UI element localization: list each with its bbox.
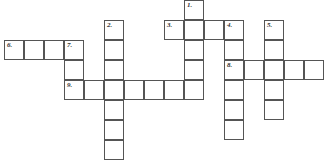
crossword-cell[interactable]: 1. bbox=[184, 0, 204, 20]
crossword-cell[interactable] bbox=[204, 20, 224, 40]
crossword-cell[interactable] bbox=[304, 60, 324, 80]
crossword-cell[interactable]: 4. bbox=[224, 20, 244, 40]
crossword-cell[interactable]: 7. bbox=[64, 40, 84, 60]
crossword-cell[interactable] bbox=[104, 140, 124, 160]
clue-number: 7. bbox=[67, 41, 72, 50]
crossword-cell[interactable] bbox=[284, 60, 304, 80]
crossword-cell[interactable] bbox=[104, 40, 124, 60]
crossword-cell[interactable] bbox=[184, 40, 204, 60]
crossword-cell[interactable] bbox=[24, 40, 44, 60]
crossword-cell[interactable] bbox=[104, 60, 124, 80]
clue-number: 9. bbox=[67, 81, 72, 90]
crossword-cell[interactable] bbox=[264, 100, 284, 120]
clue-number: 4. bbox=[227, 21, 232, 30]
crossword-cell[interactable] bbox=[104, 80, 124, 100]
crossword-cell[interactable]: 8. bbox=[224, 60, 244, 80]
crossword-cell[interactable] bbox=[264, 60, 284, 80]
crossword-grid: 1.2.3.4.8.5.6.7.9. bbox=[0, 0, 328, 166]
clue-number: 6. bbox=[7, 41, 12, 50]
crossword-cell[interactable] bbox=[104, 100, 124, 120]
clue-number: 2. bbox=[107, 21, 112, 30]
crossword-cell[interactable] bbox=[64, 60, 84, 80]
crossword-cell[interactable] bbox=[124, 80, 144, 100]
crossword-cell[interactable] bbox=[224, 40, 244, 60]
crossword-cell[interactable] bbox=[184, 80, 204, 100]
crossword-cell[interactable] bbox=[104, 120, 124, 140]
crossword-cell[interactable]: 2. bbox=[104, 20, 124, 40]
clue-number: 3. bbox=[167, 21, 172, 30]
crossword-cell[interactable]: 9. bbox=[64, 80, 84, 100]
clue-number: 5. bbox=[267, 21, 272, 30]
crossword-cell[interactable] bbox=[264, 80, 284, 100]
crossword-cell[interactable] bbox=[264, 40, 284, 60]
clue-number: 8. bbox=[227, 61, 232, 70]
crossword-cell[interactable] bbox=[164, 80, 184, 100]
crossword-cell[interactable] bbox=[184, 20, 204, 40]
crossword-cell[interactable] bbox=[144, 80, 164, 100]
crossword-cell[interactable] bbox=[44, 40, 64, 60]
crossword-cell[interactable] bbox=[224, 120, 244, 140]
crossword-cell[interactable] bbox=[224, 100, 244, 120]
crossword-cell[interactable] bbox=[184, 60, 204, 80]
crossword-cell[interactable] bbox=[244, 60, 264, 80]
crossword-cell[interactable]: 6. bbox=[4, 40, 24, 60]
crossword-cell[interactable]: 5. bbox=[264, 20, 284, 40]
crossword-cell[interactable] bbox=[84, 80, 104, 100]
crossword-cell[interactable] bbox=[224, 80, 244, 100]
clue-number: 1. bbox=[187, 1, 192, 10]
crossword-cell[interactable]: 3. bbox=[164, 20, 184, 40]
